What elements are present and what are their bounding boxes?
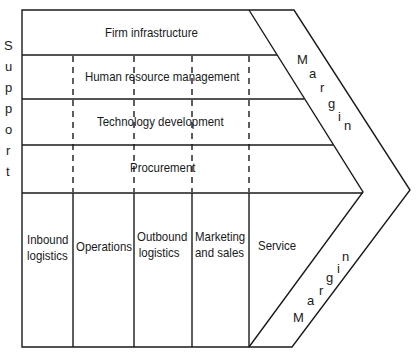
margin-char: M [297,52,308,67]
margin-char: M [293,310,304,325]
margin-char: n [344,118,351,133]
support-activity-hr-management: Human resource management [85,69,240,85]
primary-activity-outbound-logistics: Outbound logistics [137,229,187,261]
label-line: Service [258,238,296,254]
primary-activity-operations: Operations [76,239,132,255]
label-line: Operations [76,239,132,255]
primary-activity-inbound-logistics: Inbound logistics [27,232,68,264]
margin-char: g [326,270,333,285]
value-chain-diagram [0,0,418,362]
margin-char: a [309,66,316,81]
label-line: logistics [137,245,187,261]
primary-activity-marketing-sales: Marketing and sales [195,229,245,261]
margin-char: i [338,109,341,124]
support-char: t [6,164,10,179]
label-line: Marketing [195,229,245,245]
margin-chevron [249,10,410,347]
label-line: Outbound [137,229,187,245]
support-char: r [6,143,10,158]
label-line: Inbound [27,232,68,248]
support-char: o [5,122,12,137]
label-line: and sales [195,245,245,261]
margin-char: r [319,283,323,298]
frame-outline [22,10,249,347]
label-line: logistics [27,248,68,264]
margin-char: n [342,249,349,264]
support-char: p [5,101,12,116]
support-char: S [4,38,13,53]
support-activity-procurement: Procurement [130,160,195,176]
margin-char: a [307,293,314,308]
margin-char: i [337,261,340,276]
support-char: u [5,59,12,74]
support-activity-technology-development: Technology development [97,114,224,130]
support-char: p [5,80,12,95]
primary-activity-service: Service [258,238,296,254]
margin-char: g [328,96,335,111]
support-activity-firm-infrastructure: Firm infrastructure [105,25,198,41]
margin-char: r [320,80,324,95]
